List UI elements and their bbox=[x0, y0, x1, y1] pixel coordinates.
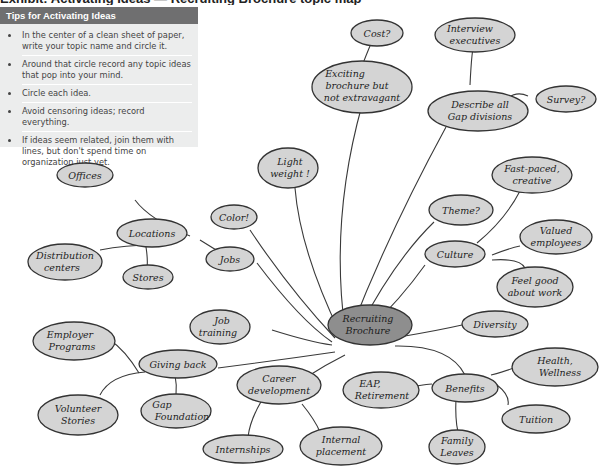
node-volunteer-stories: Volunteer Stories bbox=[38, 395, 118, 435]
node-label: Internal bbox=[321, 434, 361, 445]
node-label: Feel good bbox=[511, 275, 559, 286]
node-employer-programs: Employer Programs bbox=[33, 322, 115, 360]
node-label: employees bbox=[531, 237, 582, 248]
node-feel-good-about-work: Feel good about work bbox=[497, 267, 573, 307]
node-label: weight ! bbox=[270, 168, 310, 179]
node-label: Leaves bbox=[439, 447, 474, 458]
node-label: Distribution bbox=[35, 250, 94, 261]
node-tuition: Tuition bbox=[502, 405, 570, 433]
node-culture: Culture bbox=[425, 241, 485, 267]
node-label: Job bbox=[212, 315, 230, 326]
node-label: Describe all bbox=[450, 99, 508, 110]
node-survey: Survey? bbox=[536, 86, 596, 112]
node-label: Career bbox=[262, 373, 297, 384]
node-label: Stores bbox=[132, 272, 163, 283]
node-label: centers bbox=[44, 262, 80, 273]
node-diversity: Diversity bbox=[462, 311, 528, 337]
node-gap-foundation: Gap Foundation bbox=[141, 394, 211, 428]
node-label: Health, bbox=[536, 355, 573, 366]
node-label: Gap divisions bbox=[448, 111, 513, 122]
node-label: Exciting bbox=[324, 68, 365, 79]
node-label: Brochure bbox=[345, 325, 391, 336]
node-label: training bbox=[199, 327, 237, 338]
node-label: Offices bbox=[68, 170, 102, 181]
nodes: Recruiting Brochure Cost? Interview exec… bbox=[28, 18, 598, 465]
node-label: Survey? bbox=[547, 94, 587, 105]
node-career-development: Career development bbox=[237, 366, 321, 404]
node-internships: Internships bbox=[203, 435, 283, 463]
node-label: Tuition bbox=[519, 414, 553, 425]
node-benefits: Benefits bbox=[432, 374, 498, 402]
node-label: creative bbox=[513, 175, 552, 186]
node-locations: Locations bbox=[117, 219, 187, 247]
node-label: Diversity bbox=[472, 319, 517, 330]
node-label: Locations bbox=[128, 228, 176, 239]
node-color: Color! bbox=[211, 205, 257, 229]
node-label: Foundation bbox=[154, 411, 209, 422]
node-label: brochure but bbox=[325, 80, 388, 91]
node-job-training: Job training bbox=[190, 310, 250, 344]
node-label: Valued bbox=[540, 225, 573, 236]
node-label: Stories bbox=[61, 415, 95, 426]
node-label: Giving back bbox=[149, 359, 206, 370]
node-label: Theme? bbox=[442, 205, 481, 216]
node-describe-gap-divisions: Describe all Gap divisions bbox=[428, 91, 528, 131]
node-giving-back: Giving back bbox=[139, 350, 217, 378]
node-family-leaves: Family Leaves bbox=[429, 430, 485, 464]
node-stores: Stores bbox=[123, 265, 173, 289]
node-label: Programs bbox=[48, 341, 96, 352]
node-label: Color! bbox=[219, 212, 249, 223]
node-label: Wellness bbox=[539, 367, 581, 378]
node-offices: Offices bbox=[57, 163, 113, 187]
node-distribution-centers: Distribution centers bbox=[28, 244, 102, 280]
node-label: executives bbox=[450, 35, 501, 46]
node-jobs: Jobs bbox=[206, 247, 254, 271]
node-label: Gap bbox=[152, 399, 171, 410]
node-label: about work bbox=[508, 287, 563, 298]
node-label: Light bbox=[276, 156, 303, 167]
node-exciting-brochure: Exciting brochure but not extravagant bbox=[312, 61, 412, 113]
node-label: Interview bbox=[446, 23, 493, 34]
node-label: not extravagant bbox=[324, 92, 401, 103]
node-label: Volunteer bbox=[55, 403, 103, 414]
node-eap-retirement: EAP, Retirement bbox=[343, 372, 419, 408]
node-valued-employees: Valued employees bbox=[520, 220, 592, 254]
node-light-weight: Light weight ! bbox=[258, 148, 318, 188]
node-theme: Theme? bbox=[429, 195, 493, 225]
node-label: Family bbox=[440, 435, 474, 446]
node-label: Recruiting bbox=[342, 313, 394, 324]
node-label: Internships bbox=[215, 444, 271, 455]
node-label: EAP, bbox=[358, 378, 380, 389]
node-health-wellness: Health, Wellness bbox=[512, 348, 598, 386]
node-label: Employer bbox=[46, 329, 95, 340]
node-internal-placement: Internal placement bbox=[300, 427, 382, 465]
node-center-recruiting-brochure: Recruiting Brochure bbox=[328, 305, 412, 345]
node-label: Cost? bbox=[364, 28, 392, 39]
node-label: Fast-paced, bbox=[503, 163, 559, 174]
node-interview-executives: Interview executives bbox=[435, 18, 515, 52]
node-label: development bbox=[248, 385, 310, 396]
node-label: placement bbox=[316, 446, 366, 457]
node-cost: Cost? bbox=[351, 20, 403, 46]
mind-map: Recruiting Brochure Cost? Interview exec… bbox=[0, 0, 600, 466]
node-label: Retirement bbox=[354, 390, 410, 401]
node-fast-paced-creative: Fast-paced, creative bbox=[492, 157, 572, 193]
node-label: Culture bbox=[437, 249, 474, 260]
node-label: Jobs bbox=[218, 254, 241, 265]
node-label: Benefits bbox=[444, 383, 484, 394]
